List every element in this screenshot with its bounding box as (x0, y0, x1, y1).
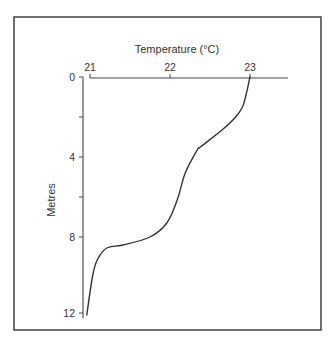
y-tick-label-8: 8 (69, 231, 75, 243)
y-axis-title: Metres (45, 183, 57, 217)
x-tick-label-23: 23 (244, 61, 256, 73)
x-tick-label-22: 22 (164, 61, 176, 73)
y-tick-label-4: 4 (69, 151, 75, 163)
chart: Temperature (°C) 21 22 23 0 4 8 12 Metre… (0, 0, 335, 337)
x-tick-label-21: 21 (84, 61, 96, 73)
y-tick-label-0: 0 (69, 71, 75, 83)
chart-svg: Temperature (°C) 21 22 23 0 4 8 12 Metre… (0, 0, 335, 337)
y-tick-label-12: 12 (63, 307, 75, 319)
x-axis-title: Temperature (°C) (135, 43, 219, 55)
